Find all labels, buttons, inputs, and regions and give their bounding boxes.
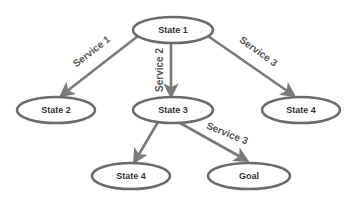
edge-label: Service 2 bbox=[154, 48, 165, 92]
nodes: State 1State 2State 3State 4State 4Goal bbox=[17, 17, 340, 189]
node-state3: State 3 bbox=[133, 97, 213, 123]
edge-label: Service 3 bbox=[205, 120, 250, 147]
node-label: State 2 bbox=[41, 105, 71, 115]
node-state2: State 2 bbox=[17, 97, 95, 123]
node-label: State 4 bbox=[286, 105, 316, 115]
node-label: Goal bbox=[239, 171, 259, 181]
edge-labels: Service 1Service 2Service 3Service 3 bbox=[71, 33, 280, 146]
node-state4b: State 4 bbox=[92, 163, 170, 189]
node-state4a: State 4 bbox=[262, 97, 340, 123]
node-label: State 3 bbox=[158, 105, 188, 115]
edge-label: Service 1 bbox=[71, 33, 113, 69]
state-transition-diagram: State 1State 2State 3State 4State 4Goal … bbox=[0, 0, 355, 199]
edge-state3-to-state4b bbox=[135, 122, 158, 161]
edge-label: Service 3 bbox=[237, 34, 279, 69]
node-label: State 4 bbox=[116, 171, 146, 181]
node-label: State 1 bbox=[158, 25, 188, 35]
node-state1: State 1 bbox=[133, 17, 213, 43]
node-goal: Goal bbox=[208, 163, 290, 189]
